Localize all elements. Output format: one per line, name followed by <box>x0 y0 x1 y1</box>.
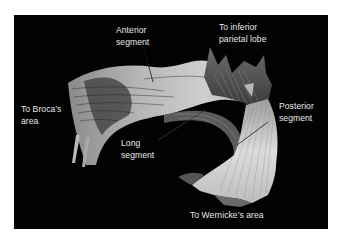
label-wernicke: To Wernicke’s area <box>190 209 264 221</box>
label-anterior-segment: Anterior segment <box>116 24 149 48</box>
label-inferior-parietal: To inferior parietal lobe <box>219 21 266 45</box>
long-segment-tract <box>164 111 243 155</box>
figure-panel: Anterior segment To inferior parietal lo… <box>14 15 328 229</box>
label-long-segment: Long segment <box>121 137 154 161</box>
label-broca: To Broca’s area <box>21 103 61 127</box>
label-posterior-segment: Posterior segment <box>279 100 314 124</box>
